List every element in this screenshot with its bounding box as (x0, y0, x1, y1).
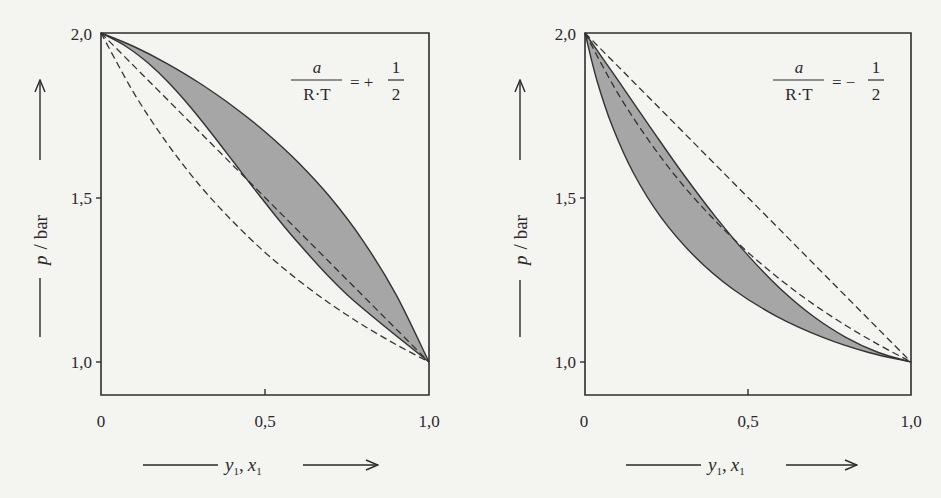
svg-text:R·T: R·T (303, 85, 331, 104)
x-tick-label: 0 (97, 412, 106, 431)
svg-text:2: 2 (872, 85, 881, 104)
x-axis-title: y1,x1 (706, 454, 745, 477)
y-tick-label: 1,0 (555, 353, 576, 372)
y-tick-label: 1,5 (71, 189, 92, 208)
y-tick-label: 2,0 (555, 25, 576, 44)
svg-text:R·T: R·T (785, 85, 813, 104)
x-tick-label: 0,5 (737, 412, 758, 431)
y-axis-title: p/ bar (510, 214, 531, 266)
right-plot: 2,0 1,5 1,0 0 0,5 1,0 p/ bar y1,x1 a R·T… (510, 25, 922, 477)
y-tick-label: 2,0 (71, 25, 92, 44)
ideal-bubble-line (585, 33, 911, 362)
parameter-annotation: a R·T = + 1 2 (291, 58, 404, 104)
plot-frame (101, 33, 429, 395)
x-tick-label: 0 (580, 412, 589, 431)
svg-text:= +: = + (350, 73, 373, 92)
svg-text:2: 2 (392, 85, 401, 104)
svg-text:= −: = − (832, 73, 855, 92)
svg-text:a: a (313, 58, 322, 77)
svg-text:1: 1 (872, 58, 881, 77)
svg-text:a: a (795, 58, 804, 77)
y-axis-title: p/ bar (30, 214, 51, 266)
svg-text:1: 1 (392, 58, 401, 77)
y-tick-label: 1,0 (71, 353, 92, 372)
parameter-annotation: a R·T = − 1 2 (773, 58, 884, 104)
x-tick-label: 1,0 (418, 412, 439, 431)
plot-frame (585, 33, 911, 395)
figure-canvas: 2,0 1,5 1,0 0 0,5 1,0 p/ bar y1,x1 a R·T… (0, 0, 941, 498)
x-tick-label: 0,5 (254, 412, 275, 431)
y-tick-label: 1,5 (555, 189, 576, 208)
x-tick-label: 1,0 (900, 412, 921, 431)
x-axis-title: y1,x1 (223, 454, 262, 477)
left-plot: 2,0 1,5 1,0 0 0,5 1,0 p/ bar y1,x1 a R·T… (30, 25, 440, 477)
